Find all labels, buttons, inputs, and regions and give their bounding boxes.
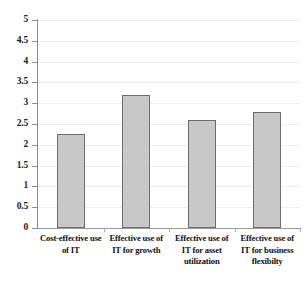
x-axis-category-label: Effective use of IT for growth xyxy=(104,233,170,281)
y-axis-tick-label: 1.5 xyxy=(0,161,28,171)
y-axis-tick-label: 5 xyxy=(0,15,28,25)
bar-chart: 54.543.532.521.510.50 Cost-effective use… xyxy=(0,0,308,282)
y-axis-tick-label: 0.5 xyxy=(0,202,28,212)
y-axis-tick-label: 4.5 xyxy=(0,36,28,46)
y-axis-tick-label: 2 xyxy=(0,140,28,150)
bar xyxy=(122,95,150,228)
y-axis-tick xyxy=(32,166,37,167)
y-axis-tick xyxy=(32,103,37,104)
y-axis-tick xyxy=(32,41,37,42)
y-axis-tick xyxy=(32,124,37,125)
x-axis-tick xyxy=(235,228,236,232)
x-axis-category-label: Cost-effective use of IT xyxy=(38,233,104,281)
y-axis-tick xyxy=(32,207,37,208)
y-axis-tick-label: 3 xyxy=(0,98,28,108)
y-axis-tick xyxy=(32,186,37,187)
y-axis-tick-label: 1 xyxy=(0,181,28,191)
plot-area xyxy=(38,20,300,228)
y-axis-tick xyxy=(32,145,37,146)
bar xyxy=(188,120,216,228)
bar xyxy=(253,112,281,228)
y-axis-tick-label: 3.5 xyxy=(0,77,28,87)
x-axis-labels-group: Cost-effective use of ITEffective use of… xyxy=(38,233,300,281)
bar xyxy=(57,134,85,228)
y-axis-tick xyxy=(32,82,37,83)
y-axis-tick xyxy=(32,62,37,63)
y-axis-tick xyxy=(32,20,37,21)
y-axis-tick xyxy=(32,228,37,229)
x-axis-tick xyxy=(104,228,105,232)
y-axis-tick-label: 0 xyxy=(0,223,28,233)
y-axis-tick-label: 2.5 xyxy=(0,119,28,129)
y-axis-tick-label: 4 xyxy=(0,57,28,67)
x-axis-category-label: Effective use of IT for business flexibi… xyxy=(235,233,301,281)
x-axis-category-label: Effective use of IT for asset utilizatio… xyxy=(169,233,235,281)
x-axis-tick xyxy=(169,228,170,232)
x-axis-tick xyxy=(300,228,301,232)
